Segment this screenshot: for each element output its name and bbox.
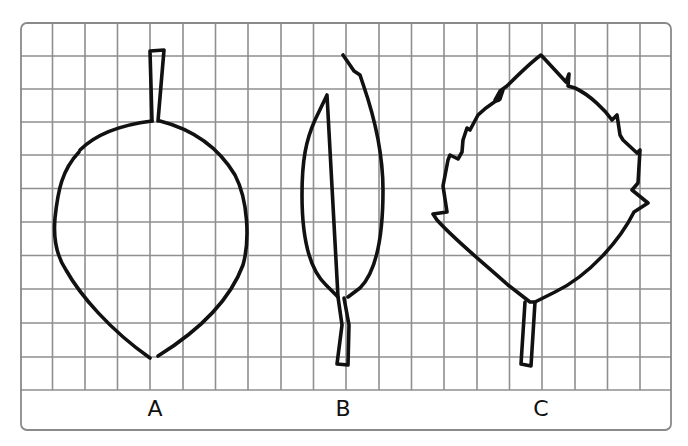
leaf-c-blade — [433, 55, 648, 302]
label-leaf-a: A — [135, 396, 175, 421]
leaf-b-stem — [337, 297, 349, 365]
leaf-c — [433, 55, 648, 366]
label-leaf-c: C — [521, 396, 561, 421]
grid-lines — [20, 23, 671, 390]
leaf-a-stem — [150, 50, 164, 121]
leaf-grid-diagram — [0, 0, 688, 446]
label-leaf-b: B — [323, 396, 363, 421]
